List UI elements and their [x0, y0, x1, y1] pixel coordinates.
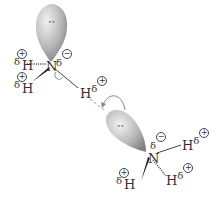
h-atom-2a: Hδ+ [182, 137, 209, 153]
n-charge-1: δ− [56, 53, 72, 69]
n-charge-2: δ− [150, 136, 166, 152]
h-atom-1b: δ+H [14, 80, 41, 96]
h-atom-2b: δ+H [116, 176, 143, 192]
h-atom-1a: δ+H [14, 57, 41, 73]
lone-pair-orbital-2 [106, 110, 146, 152]
bond-1 [54, 68, 78, 88]
n-atom-2: N [148, 150, 159, 166]
h-atom-1c: Hδ+ [80, 85, 107, 101]
lone-pair-dots-2: •• [117, 122, 124, 129]
lone-pair-dots-1: •• [48, 18, 55, 25]
h-atom-2c: Hδ+ [166, 172, 193, 188]
